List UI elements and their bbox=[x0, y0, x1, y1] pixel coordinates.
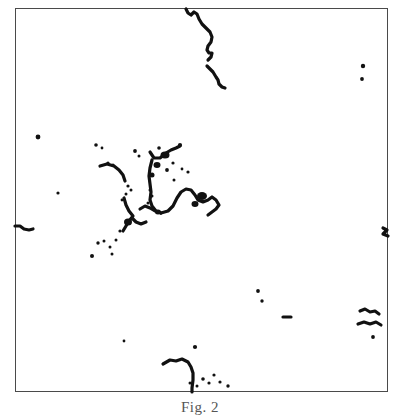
figure-container: Fig. 2 bbox=[0, 0, 400, 415]
plot-frame bbox=[15, 8, 388, 392]
figure-caption: Fig. 2 bbox=[0, 399, 400, 415]
